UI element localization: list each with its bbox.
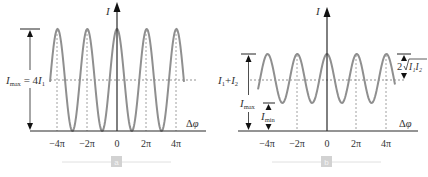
imax-label-b: Imax: [239, 97, 256, 110]
x-axis-label-b: Δφ: [399, 118, 412, 129]
badge-text-a: a: [114, 158, 119, 167]
tick-label: 2π: [351, 138, 361, 149]
amp-label-b: 2 I₁I₂: [397, 59, 427, 72]
y-axis-arrow-icon: [114, 2, 121, 12]
tick-label: −2π: [289, 138, 305, 149]
tick-label: 4π: [381, 138, 391, 149]
x-ticks-a: −4π −2π 0 2π 4π: [49, 138, 181, 149]
panel-b: I1+I2 Imax Imin 2 I₁I₂ I Δφ −4π −2π 0 2π…: [217, 5, 427, 167]
tick-label: −4π: [259, 138, 275, 149]
amp-label-two: 2: [397, 61, 402, 72]
arrow-up-icon: [27, 30, 33, 37]
x-ticks-b: −4π −2π 0 2π 4π: [259, 138, 391, 149]
amp-label-root: I₁I₂: [408, 62, 423, 72]
arrow-up-icon: [246, 55, 252, 62]
y-axis-arrow-icon: [324, 7, 331, 17]
y-axis-label-a: I: [105, 5, 111, 17]
arrow-down-icon: [401, 73, 407, 79]
badge-text-b: b: [324, 158, 329, 167]
peak-guides-b: [297, 55, 386, 131]
x-axis-label-a: Δφ: [186, 118, 199, 129]
arrow-down-icon: [266, 124, 272, 130]
y-axis-label-b: I: [315, 5, 321, 17]
figure: Imax = 4I1 I Δφ −4π −2π 0 2π 4π a: [0, 0, 428, 177]
arrow-down-icon: [246, 123, 252, 130]
arrow-down-icon: [27, 123, 33, 130]
tick-label: 2π: [141, 138, 151, 149]
tick-label: 4π: [171, 138, 181, 149]
tick-label: −4π: [49, 138, 65, 149]
mid-label-b: I1+I2: [217, 74, 238, 87]
arrow-up-icon: [266, 104, 272, 110]
imin-label-b: Imin: [260, 110, 276, 123]
tick-label: 0: [115, 138, 120, 149]
imax-label-a: Imax = 4I1: [5, 74, 45, 87]
tick-label: 0: [325, 138, 330, 149]
tick-label: −2π: [79, 138, 95, 149]
panel-a: Imax = 4I1 I Δφ −4π −2π 0 2π 4π a: [5, 2, 206, 167]
